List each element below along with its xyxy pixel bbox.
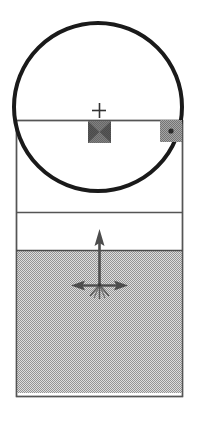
center-drag-handle[interactable] [88, 121, 111, 143]
center-point-marker[interactable] [92, 103, 106, 118]
cad-viewport[interactable]: Sketch Circle Extruded Body Three Axis M… [0, 0, 206, 443]
gizmo-origin-point[interactable] [98, 283, 102, 287]
scene-canvas[interactable] [0, 0, 206, 443]
radius-handle-dot [168, 128, 173, 133]
radius-drag-handle[interactable] [160, 120, 182, 142]
